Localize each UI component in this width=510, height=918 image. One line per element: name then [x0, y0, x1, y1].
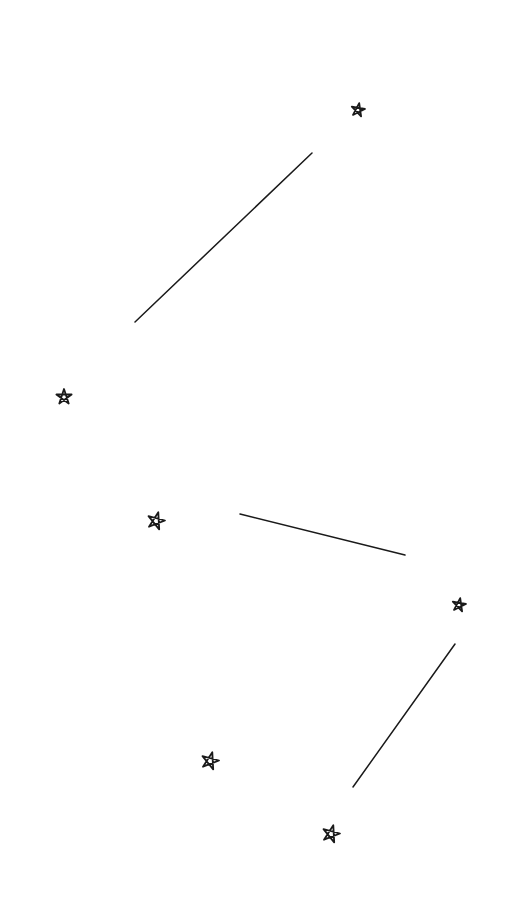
line-3: [353, 644, 455, 787]
star-icon: [149, 512, 166, 529]
star-icon: [203, 752, 220, 769]
star-icon: [352, 103, 365, 116]
line-1: [135, 153, 312, 322]
star-icon: [56, 389, 71, 404]
star-markers: [56, 103, 466, 842]
star-icon: [453, 598, 466, 611]
star-icon: [324, 825, 341, 842]
line-2: [240, 514, 405, 555]
line-segments: [135, 153, 455, 787]
sketch-canvas: [0, 0, 510, 918]
